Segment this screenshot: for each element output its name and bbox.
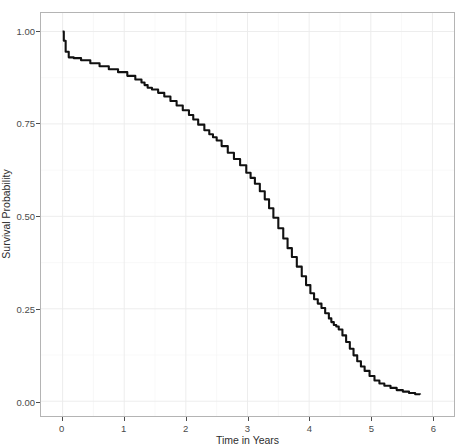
y-tick-mark xyxy=(36,31,40,32)
x-tick-mark xyxy=(371,417,372,421)
y-tick-mark xyxy=(36,123,40,124)
y-tick-label: 0.00 xyxy=(17,397,36,408)
x-tick-mark xyxy=(186,417,187,421)
y-axis-title: Survival Probability xyxy=(0,12,14,417)
x-tick-label: 2 xyxy=(183,423,188,434)
y-tick-mark xyxy=(36,402,40,403)
x-tick-label: 4 xyxy=(307,423,312,434)
x-tick-mark xyxy=(124,417,125,421)
y-tick-mark xyxy=(36,309,40,310)
y-tick-label: 0.75 xyxy=(17,118,36,129)
x-tick-mark xyxy=(433,417,434,421)
x-tick-label: 3 xyxy=(245,423,250,434)
plot-panel xyxy=(40,12,455,417)
x-tick-mark xyxy=(62,417,63,421)
x-tick-label: 6 xyxy=(431,423,436,434)
y-tick-label: 0.25 xyxy=(17,304,36,315)
y-tick-label: 0.50 xyxy=(17,211,36,222)
km-survival-curve xyxy=(41,13,454,416)
survival-curve-chart: 0123456 0.000.250.500.751.00 Time in Yea… xyxy=(0,0,465,447)
survival-line xyxy=(63,31,421,394)
x-axis-title: Time in Years xyxy=(40,434,455,446)
y-tick-label: 1.00 xyxy=(17,25,36,36)
x-tick-label: 5 xyxy=(369,423,374,434)
x-tick-label: 1 xyxy=(121,423,126,434)
y-tick-mark xyxy=(36,216,40,217)
x-tick-mark xyxy=(309,417,310,421)
x-tick-label: 0 xyxy=(59,423,64,434)
x-tick-mark xyxy=(248,417,249,421)
